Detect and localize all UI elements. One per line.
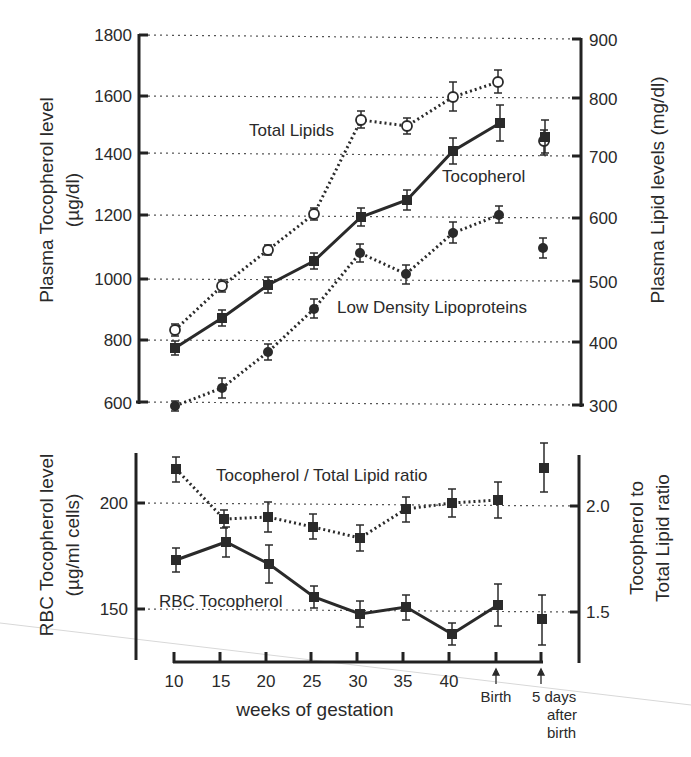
tick-600: 600 bbox=[104, 394, 132, 413]
x-tick-25: 25 bbox=[303, 672, 322, 691]
five-days-arrow-icon bbox=[538, 669, 544, 684]
lower-right-axis-title-1: Tocopherol to bbox=[626, 481, 647, 595]
lower-right-axis bbox=[570, 455, 579, 663]
tick-1-5: 1.5 bbox=[586, 603, 610, 622]
upper-left-tick-labels: 1800 1600 1400 1200 1000 800 600 bbox=[94, 26, 132, 413]
x-tick-35: 35 bbox=[394, 672, 413, 691]
x-tick-15: 15 bbox=[212, 672, 231, 691]
label-rbc-tocopherol: RBC Tocopherol bbox=[159, 592, 282, 611]
tick-700: 700 bbox=[589, 148, 617, 167]
upper-left-axis bbox=[136, 34, 148, 404]
chart-figure: 1800 1600 1400 1200 1000 800 600 900 800… bbox=[0, 0, 691, 757]
upper-right-axis bbox=[572, 38, 584, 407]
tick-800: 800 bbox=[104, 331, 132, 350]
series-rbc-tocopherol bbox=[171, 527, 547, 645]
upper-chart: 1800 1600 1400 1200 1000 800 600 900 800… bbox=[36, 26, 668, 416]
x-axis-title: weeks of gestation bbox=[235, 699, 393, 720]
tick-600r: 600 bbox=[589, 209, 617, 228]
x-tick-10: 10 bbox=[165, 672, 184, 691]
lower-left-axis-unit: (µg/ml cells) bbox=[62, 494, 83, 597]
tick-1400: 1400 bbox=[94, 145, 132, 164]
x-axis: 10 15 20 25 30 35 40 Birth 5 days after … bbox=[165, 652, 577, 741]
x-tick-40: 40 bbox=[440, 672, 459, 691]
tick-800r: 800 bbox=[589, 90, 617, 109]
label-tocopherol: Tocopherol bbox=[442, 167, 525, 186]
x-tick-5days-line3: birth bbox=[547, 724, 576, 741]
series-ratio bbox=[171, 443, 549, 551]
lower-left-axis-title: RBC Tocopherol level bbox=[36, 454, 57, 636]
tick-300: 300 bbox=[589, 397, 617, 416]
upper-right-tick-labels: 900 800 700 600 500 400 300 bbox=[589, 31, 617, 416]
x-tick-20: 20 bbox=[257, 672, 276, 691]
tick-500: 500 bbox=[589, 273, 617, 292]
x-tick-5days-line1: 5 days bbox=[532, 688, 576, 705]
tick-900: 900 bbox=[589, 31, 617, 50]
tick-1000: 1000 bbox=[94, 270, 132, 289]
tick-1600: 1600 bbox=[94, 87, 132, 106]
tick-1200: 1200 bbox=[94, 206, 132, 225]
series-total-lipids bbox=[170, 70, 549, 336]
x-tick-30: 30 bbox=[349, 672, 368, 691]
tick-1800: 1800 bbox=[94, 26, 132, 45]
tick-2-0: 2.0 bbox=[586, 497, 610, 516]
label-ldl: Low Density Lipoproteins bbox=[337, 298, 527, 317]
label-ratio: Tocopherol / Total Lipid ratio bbox=[216, 466, 427, 485]
upper-left-axis-title: Plasma Tocopherol level bbox=[36, 97, 57, 303]
tick-150: 150 bbox=[100, 600, 128, 619]
upper-left-axis-unit: (µg/dl) bbox=[62, 173, 83, 227]
series-tocopherol bbox=[170, 105, 550, 355]
lower-left-axis bbox=[136, 453, 145, 660]
tick-200: 200 bbox=[100, 494, 128, 513]
lower-chart: 200 150 2.0 1.5 RBC Tocopherol level (µg… bbox=[36, 443, 673, 663]
lower-right-axis-title-2: Total Lipid ratio bbox=[652, 474, 673, 602]
x-tick-5days-line2: after bbox=[547, 706, 577, 723]
label-total-lipids: Total Lipids bbox=[249, 121, 334, 140]
tick-400: 400 bbox=[589, 334, 617, 353]
upper-right-axis-title: Plasma Lipid levels (mg/dl) bbox=[647, 76, 668, 303]
x-tick-birth: Birth bbox=[481, 688, 512, 705]
